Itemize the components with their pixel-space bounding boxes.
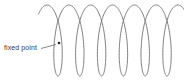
trochoid-curve [38, 5, 184, 76]
fixed-point-label: fixed point [4, 44, 37, 51]
fixed-point-marker [58, 42, 61, 45]
diagram-canvas [0, 0, 184, 82]
looping-curve-diagram: fixed point [0, 0, 184, 82]
